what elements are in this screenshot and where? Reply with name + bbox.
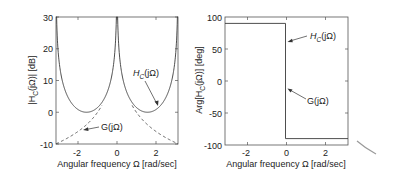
y-tick-label: -100 [204, 141, 222, 151]
arrow-head-icon [83, 127, 89, 131]
y-tick-label: -50 [209, 109, 222, 119]
hc-annotation-label: HC(jΩ) [133, 68, 159, 80]
y-tick-label: 0 [48, 108, 53, 118]
arrow-head-icon [155, 101, 159, 107]
phase-y-axis-label: Arg[HC(jΩ)] [deg] [194, 46, 206, 113]
arrow-head-icon [288, 89, 293, 93]
y-tick-label: 100 [207, 13, 222, 23]
g-annotation-label: G(jΩ) [101, 122, 123, 132]
y-tick-label: 0 [217, 77, 222, 87]
g-phase-annotation-label: G(jΩ) [307, 96, 329, 106]
hc-phase-annotation-label: HC(jΩ) [310, 31, 336, 43]
x-tick-label: 2 [153, 148, 158, 158]
x-tick-label: -2 [73, 148, 81, 158]
x-tick-label: 2 [323, 148, 328, 158]
magnitude-x-axis-label: Angular frequency Ω [rad/sec] [57, 159, 176, 169]
phase-x-axis-label: Angular frequency Ω [rad/sec] [226, 159, 345, 169]
y-tick-label: 30 [43, 13, 53, 23]
scan-mark [357, 141, 376, 154]
phase-plot: 100 50 0 -50 -100 -2 0 2 Angular frequen… [194, 13, 348, 170]
y-tick-label: 10 [43, 76, 53, 86]
magnitude-y-axis-label: |HC(jΩ)| [dB] [27, 55, 39, 104]
arrow-head-icon [288, 39, 293, 43]
hc-magnitude-curve [56, 17, 178, 112]
x-tick-label: 0 [114, 148, 119, 158]
figure: 30 20 10 0 -10 -2 0 2 Angular frequency … [0, 0, 395, 179]
magnitude-plot: 30 20 10 0 -10 -2 0 2 Angular frequency … [27, 13, 178, 170]
hc-phase-annotation-arrow [290, 36, 307, 41]
phase-y-ticks [225, 49, 348, 113]
x-tick-label: -2 [242, 148, 250, 158]
y-tick-label: -10 [40, 140, 53, 150]
y-tick-label: 20 [43, 44, 53, 54]
x-tick-label: 0 [284, 148, 289, 158]
y-tick-label: 50 [212, 45, 222, 55]
hc-annotation-arrow [145, 81, 157, 104]
g-phase-annotation-arrow [290, 90, 306, 99]
